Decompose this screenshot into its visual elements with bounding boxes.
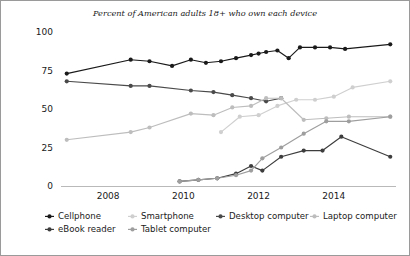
data-point — [320, 148, 324, 152]
data-point — [339, 135, 343, 139]
legend-marker-icon — [130, 214, 134, 218]
data-point — [234, 173, 238, 177]
data-point — [196, 178, 200, 182]
legend-item-tablet-computer[interactable]: Tablet computer — [128, 224, 211, 234]
legend-label: Desktop computer — [229, 211, 309, 221]
data-point — [298, 45, 302, 49]
y-tick-label: 50 — [42, 104, 54, 114]
data-point — [189, 88, 193, 92]
legend-item-desktop-computer[interactable]: Desktop computer — [216, 211, 309, 221]
data-point — [147, 125, 151, 129]
x-tick-label: 2008 — [97, 191, 120, 201]
data-point — [302, 148, 306, 152]
data-point — [249, 53, 253, 57]
data-point — [313, 45, 317, 49]
data-point — [264, 50, 268, 54]
legend-label: Tablet computer — [140, 224, 211, 234]
data-point — [219, 130, 223, 134]
data-point — [65, 71, 69, 75]
legend-label: Laptop computer — [323, 211, 397, 221]
x-tick-label: 2012 — [247, 191, 270, 201]
data-point — [302, 132, 306, 136]
chart-title: Percent of American adults 18+ who own e… — [92, 8, 317, 18]
data-point — [249, 169, 253, 173]
data-point — [219, 59, 223, 63]
data-point — [332, 95, 336, 99]
data-point — [249, 104, 253, 108]
legend-label: Cellphone — [58, 211, 101, 221]
data-point — [211, 90, 215, 94]
chart-figure: Percent of American adults 18+ who own e… — [0, 0, 410, 256]
data-point — [388, 79, 392, 83]
data-point — [275, 48, 279, 52]
y-tick-label: 0 — [47, 181, 53, 191]
data-point — [388, 42, 392, 46]
data-point — [204, 61, 208, 65]
data-point — [249, 96, 253, 100]
legend-marker-icon — [130, 227, 134, 231]
data-point — [388, 155, 392, 159]
data-point — [351, 85, 355, 89]
data-point — [129, 130, 133, 134]
data-point — [324, 119, 328, 123]
data-point — [189, 112, 193, 116]
y-tick-label: 75 — [42, 66, 53, 76]
data-point — [287, 56, 291, 60]
legend-item-laptop-computer[interactable]: Laptop computer — [310, 211, 397, 221]
data-point — [388, 115, 392, 119]
data-point — [147, 59, 151, 63]
data-point — [279, 145, 283, 149]
data-point — [65, 138, 69, 142]
data-point — [249, 164, 253, 168]
y-tick-label: 25 — [42, 143, 53, 153]
data-point — [170, 64, 174, 68]
data-point — [230, 105, 234, 109]
data-point — [343, 47, 347, 51]
y-tick-label: 100 — [36, 27, 53, 37]
data-point — [65, 79, 69, 83]
data-point — [230, 93, 234, 97]
data-point — [215, 176, 219, 180]
data-point — [347, 119, 351, 123]
data-point — [279, 155, 283, 159]
x-tick-label: 2014 — [322, 191, 345, 201]
legend-marker-icon — [47, 227, 51, 231]
data-point — [279, 96, 283, 100]
data-point — [189, 58, 193, 62]
x-tick-label: 2010 — [172, 191, 195, 201]
data-point — [129, 58, 133, 62]
data-point — [313, 98, 317, 102]
data-point — [234, 56, 238, 60]
data-point — [328, 45, 332, 49]
legend-marker-icon — [47, 214, 51, 218]
data-point — [238, 115, 242, 119]
data-point — [260, 156, 264, 160]
data-point — [275, 104, 279, 108]
data-point — [347, 115, 351, 119]
legend-label: eBook reader — [58, 224, 116, 234]
data-point — [294, 98, 298, 102]
data-point — [211, 113, 215, 117]
legend-marker-icon — [312, 214, 316, 218]
data-point — [129, 84, 133, 88]
data-point — [264, 96, 268, 100]
legend-label: Smartphone — [141, 211, 194, 221]
legend-marker-icon — [218, 214, 222, 218]
data-point — [147, 84, 151, 88]
data-point — [302, 118, 306, 122]
data-point — [256, 51, 260, 55]
data-point — [260, 169, 264, 173]
data-point — [256, 113, 260, 117]
data-point — [178, 179, 182, 183]
